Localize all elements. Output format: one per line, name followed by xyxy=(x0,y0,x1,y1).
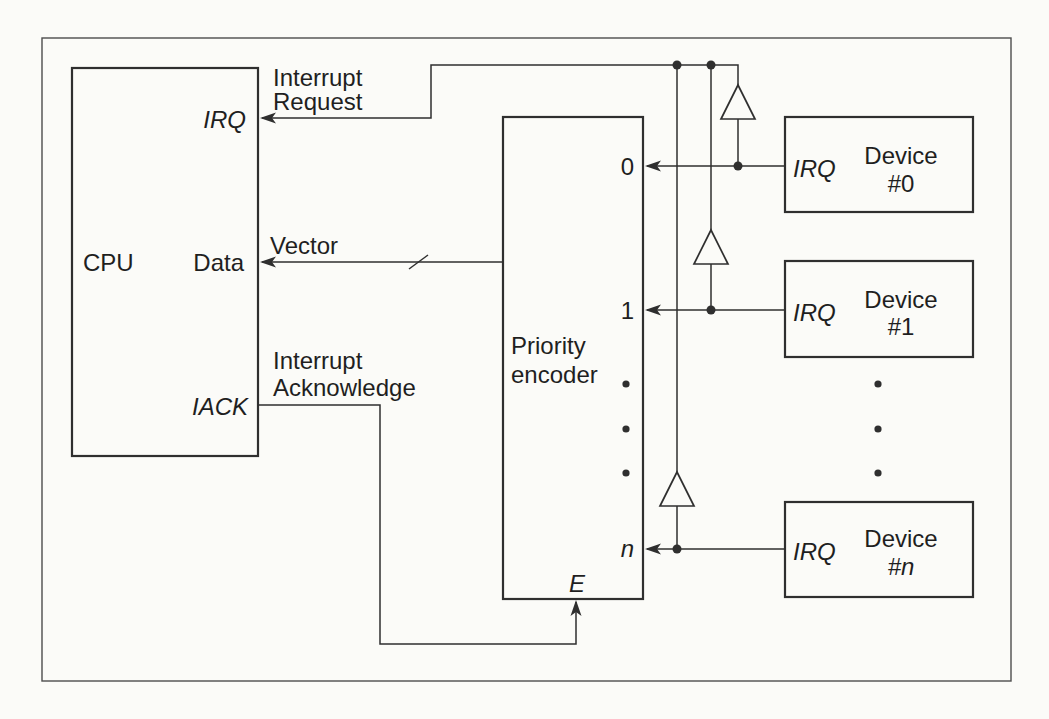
device-1-id: #1 xyxy=(888,313,915,340)
ellipsis-dot xyxy=(874,380,881,387)
interrupt-request-label-line2: Request xyxy=(273,88,363,115)
encoder-input-n-label: n xyxy=(621,535,634,562)
ellipsis-dot xyxy=(874,469,881,476)
junction-dot xyxy=(673,545,682,554)
cpu-label: CPU xyxy=(83,249,134,276)
interrupt-priority-diagram: CPU IRQ Data IACK Interrupt Request Vect… xyxy=(0,0,1049,719)
tristate-buffer-n xyxy=(660,472,694,506)
junction-dot xyxy=(707,61,716,70)
tristate-buffer-1 xyxy=(694,230,728,264)
interrupt-request-label-line1: Interrupt xyxy=(273,64,363,91)
encoder-label-line2: encoder xyxy=(511,361,598,388)
cpu-port-irq: IRQ xyxy=(203,106,246,133)
ellipsis-dot xyxy=(622,425,629,432)
device-1-port-irq: IRQ xyxy=(793,299,836,326)
device-n-id: #n xyxy=(888,553,915,580)
ellipsis-dot xyxy=(622,380,629,387)
vector-label: Vector xyxy=(270,232,338,259)
device-0-name: Device xyxy=(864,142,937,169)
device-n-name: Device xyxy=(864,525,937,552)
encoder-input-1-label: 1 xyxy=(621,297,634,324)
cpu-port-iack: IACK xyxy=(192,393,249,420)
junction-dot xyxy=(734,162,743,171)
cpu-port-data: Data xyxy=(193,249,244,276)
device-1-name: Device xyxy=(864,286,937,313)
tristate-buffer-0 xyxy=(721,85,755,119)
device-0-port-irq: IRQ xyxy=(793,155,836,182)
encoder-input-0-label: 0 xyxy=(621,153,634,180)
encoder-label-line1: Priority xyxy=(511,332,586,359)
figure-frame xyxy=(42,38,1011,681)
interrupt-acknowledge-label-line1: Interrupt xyxy=(273,347,363,374)
ellipsis-dot xyxy=(622,469,629,476)
interrupt-acknowledge-wire xyxy=(258,405,576,644)
junction-dot xyxy=(673,61,682,70)
device-0-id: #0 xyxy=(888,170,915,197)
junction-dot xyxy=(707,306,716,315)
encoder-enable-label: E xyxy=(569,570,586,597)
device-n-port-irq: IRQ xyxy=(793,538,836,565)
interrupt-acknowledge-label-line2: Acknowledge xyxy=(273,374,416,401)
ellipsis-dot xyxy=(874,425,881,432)
